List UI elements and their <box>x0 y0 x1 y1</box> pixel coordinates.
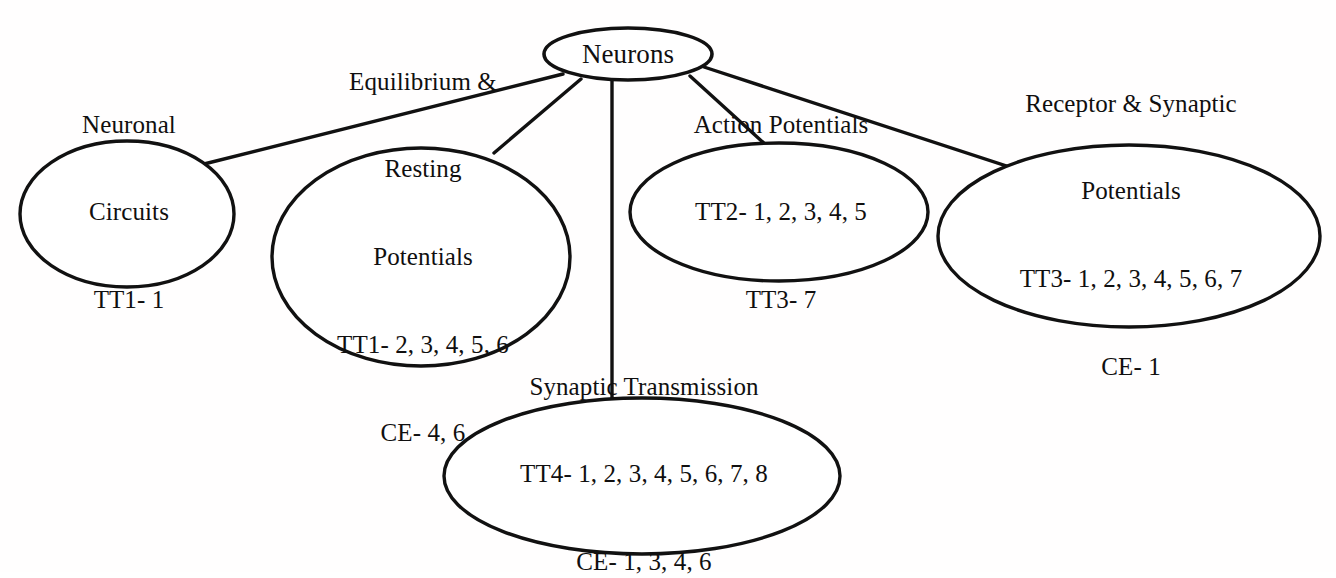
node-shape-group <box>20 28 1320 554</box>
node-ellipse-neuronal-circuits[interactable] <box>20 141 234 287</box>
node-ellipse-receptor-synaptic-potentials[interactable] <box>938 145 1320 327</box>
node-ellipse-neurons[interactable] <box>544 28 712 80</box>
node-ellipse-synaptic-transmission[interactable] <box>444 398 840 554</box>
edge-neurons-to-action-potentials <box>690 76 766 145</box>
edge-neurons-to-equilibrium <box>494 79 581 153</box>
node-ellipse-action-potentials[interactable] <box>630 143 928 281</box>
node-ellipse-equilibrium-resting-potentials[interactable] <box>272 148 570 366</box>
